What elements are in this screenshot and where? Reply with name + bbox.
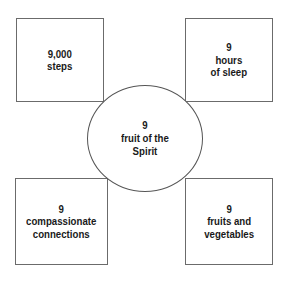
- clipped-header-text: · ·: [0, 0, 288, 3]
- center-node-fruit-of-the-spirit: 9 fruit of the Spirit: [87, 85, 203, 192]
- node-box-compassionate-connections-label: 9 compassionate connections: [24, 203, 98, 241]
- node-box-fruits-and-vegetables-label: 9 fruits and vegetables: [202, 203, 256, 241]
- node-box-steps-label: 9,000 steps: [46, 48, 75, 73]
- diagram-canvas: · · 9,000 steps 9 hours of sleep 9 compa…: [0, 0, 288, 281]
- node-box-fruits-and-vegetables: 9 fruits and vegetables: [185, 178, 273, 265]
- node-box-hours-of-sleep: 9 hours of sleep: [185, 18, 273, 102]
- node-box-compassionate-connections: 9 compassionate connections: [15, 178, 108, 265]
- node-box-steps: 9,000 steps: [16, 18, 104, 102]
- node-box-hours-of-sleep-label: 9 hours of sleep: [209, 41, 249, 79]
- center-node-label: 9 fruit of the Spirit: [119, 119, 170, 158]
